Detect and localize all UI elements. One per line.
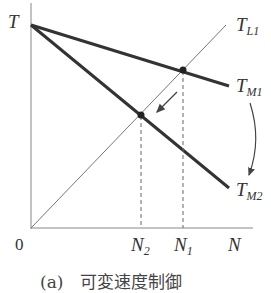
intersection-n1-dot xyxy=(180,67,187,74)
curved-arrow-icon xyxy=(249,103,256,175)
label-tm1: TM1 xyxy=(236,76,263,98)
label-tm2: TM2 xyxy=(236,180,263,202)
motor-line-tm1 xyxy=(31,25,229,86)
origin-label: 0 xyxy=(15,235,24,255)
shift-arrow-icon xyxy=(157,92,177,112)
figure-caption: (a) 可変速度制御 xyxy=(40,268,182,293)
x-tick-n1: N1 xyxy=(174,235,193,257)
x-tick-n2: N2 xyxy=(131,235,150,257)
intersection-n2-dot xyxy=(138,112,145,119)
motor-line-tm2 xyxy=(31,25,229,188)
label-tl1: TL1 xyxy=(236,15,259,37)
x-axis-label: N xyxy=(228,235,241,254)
y-axis-label: T xyxy=(8,12,19,31)
